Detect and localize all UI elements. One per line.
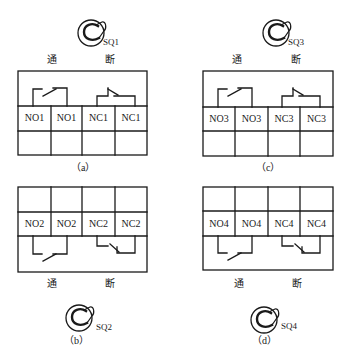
selector-knob-icon bbox=[263, 20, 291, 46]
figure-caption: （d） bbox=[252, 336, 277, 346]
terminal-cell: NO2 bbox=[51, 219, 82, 229]
no-contact-icon bbox=[33, 88, 67, 106]
terminal-cell: NC3 bbox=[300, 114, 333, 124]
no-contact-icon bbox=[33, 236, 67, 261]
terminal-cell: NO1 bbox=[51, 113, 82, 123]
on-position-label: 通 bbox=[47, 279, 57, 289]
terminal-cell: NO2 bbox=[18, 219, 51, 229]
off-position-label: 断 bbox=[105, 55, 115, 65]
terminal-cell: NC2 bbox=[82, 219, 115, 229]
no-contact-icon bbox=[218, 236, 252, 260]
nc-contact-icon bbox=[97, 236, 135, 253]
terminal-cell: NO4 bbox=[203, 219, 235, 229]
switch-label-sq4: SQ4 bbox=[281, 322, 297, 331]
selector-knob-icon bbox=[251, 307, 279, 333]
figure-caption: （b） bbox=[64, 336, 89, 346]
on-position-label: 通 bbox=[47, 55, 57, 65]
terminal-cell: NC4 bbox=[268, 219, 300, 229]
terminal-cell: NC3 bbox=[268, 114, 300, 124]
nc-contact-icon bbox=[282, 236, 320, 253]
terminal-cell: NO3 bbox=[235, 114, 268, 124]
nc-contact-icon bbox=[282, 88, 320, 107]
contact-block bbox=[18, 187, 147, 272]
switch-label-sq3: SQ3 bbox=[288, 38, 304, 47]
terminal-cell: NC1 bbox=[82, 113, 115, 123]
on-position-label: 通 bbox=[232, 55, 242, 65]
terminal-cell: NO3 bbox=[203, 114, 235, 124]
terminal-cell: NC2 bbox=[115, 219, 147, 229]
off-position-label: 断 bbox=[291, 55, 301, 65]
terminal-cell: NC1 bbox=[115, 113, 147, 123]
selector-knob-icon bbox=[66, 305, 94, 331]
panel-a bbox=[18, 20, 147, 155]
panel-d bbox=[203, 187, 333, 333]
terminal-cell: NO4 bbox=[235, 219, 268, 229]
figure-caption: （c） bbox=[256, 163, 280, 173]
switch-label-sq2: SQ2 bbox=[96, 323, 112, 332]
off-position-label: 断 bbox=[292, 279, 302, 289]
panel-c bbox=[203, 20, 333, 156]
off-position-label: 断 bbox=[105, 279, 115, 289]
figure-caption: （a） bbox=[71, 163, 95, 173]
terminal-cell: NO1 bbox=[18, 113, 51, 123]
terminal-cell: NC4 bbox=[300, 219, 333, 229]
on-position-label: 通 bbox=[234, 279, 244, 289]
nc-contact-icon bbox=[97, 88, 135, 106]
switch-label-sq1: SQ1 bbox=[103, 38, 119, 47]
no-contact-icon bbox=[218, 88, 252, 107]
panel-b bbox=[18, 187, 147, 331]
selector-knob-icon bbox=[78, 20, 106, 46]
